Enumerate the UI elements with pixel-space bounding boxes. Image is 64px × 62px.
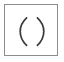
parentheses-icon-button[interactable]: parentheses in square frame ( ): [0, 0, 64, 62]
parentheses-text-value: ( ): [0, 0, 1, 1]
icon-frame-border: [4, 4, 58, 56]
